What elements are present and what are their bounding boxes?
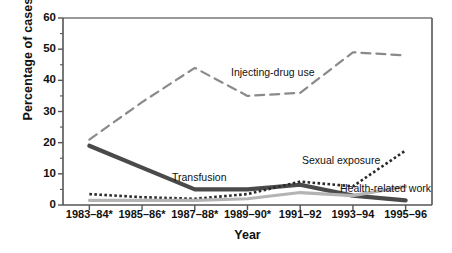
series-annotation-2: Sexual exposure bbox=[302, 155, 380, 166]
series-annotation-1: Transfusion bbox=[172, 172, 226, 183]
x-axis-tick-labels: 1983–84*1985–86*1987–88*1989–90*1991–921… bbox=[0, 0, 452, 253]
x-axis-title: Year bbox=[63, 228, 432, 242]
chart-figure: Percentage of cases 0102030405060 1983–8… bbox=[0, 0, 452, 253]
series-annotation-3: Health-related work bbox=[340, 183, 431, 194]
series-annotation-0: Injecting-drug use bbox=[231, 67, 314, 78]
x-tick-label: 1995–96 bbox=[363, 209, 449, 220]
